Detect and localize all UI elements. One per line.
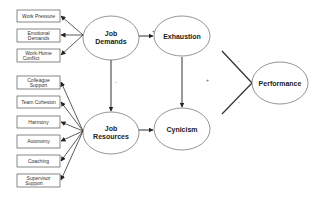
indicator-emotional-demands: Emotional Demands bbox=[17, 29, 60, 42]
construct-job-demands: Job Demands bbox=[83, 16, 139, 60]
indicator-team-cohesion: Team Cohesion bbox=[17, 96, 60, 108]
svg-text:Coaching: Coaching bbox=[28, 158, 49, 164]
construct-exhaustion: Exhaustion bbox=[154, 16, 210, 56]
sem-diagram: Work Pressure Emotional Demands Work-Hom… bbox=[0, 0, 323, 198]
svg-text:Support: Support bbox=[25, 180, 43, 186]
svg-text:Resources: Resources bbox=[93, 133, 129, 140]
path-exhaustion-performance bbox=[222, 51, 252, 83]
indicator-autonomy: Autonomy bbox=[17, 135, 60, 148]
svg-text:Demands: Demands bbox=[28, 35, 50, 41]
indicator-work-home-conflict: Work-Home Conflict bbox=[17, 49, 60, 62]
indicator-colleague-support: Colleague Support bbox=[17, 76, 60, 89]
svg-text:Performance: Performance bbox=[259, 80, 302, 87]
sign-jd-jr: - bbox=[115, 79, 117, 85]
demand-indicator-arrows bbox=[61, 16, 83, 55]
svg-text:Conflict: Conflict bbox=[23, 55, 40, 61]
construct-performance: Performance bbox=[252, 62, 308, 104]
indicator-work-pressure: Work Pressure bbox=[17, 10, 60, 22]
resource-indicator-arrows bbox=[61, 82, 83, 180]
construct-job-resources: Job Resources bbox=[83, 112, 139, 154]
svg-text:Cynicism: Cynicism bbox=[166, 126, 197, 134]
svg-text:Work Pressure: Work Pressure bbox=[22, 13, 55, 19]
svg-text:Team Cohesion: Team Cohesion bbox=[21, 99, 56, 105]
svg-text:Harmony: Harmony bbox=[28, 119, 49, 125]
sign-exhaustion-performance: - bbox=[238, 58, 240, 64]
construct-cynicism: Cynicism bbox=[154, 108, 210, 150]
svg-text:Demands: Demands bbox=[95, 38, 127, 45]
sign-cynicism-performance: - bbox=[238, 99, 240, 105]
svg-text:Job: Job bbox=[105, 30, 117, 37]
path-cynicism-performance bbox=[222, 83, 252, 114]
svg-text:Support: Support bbox=[30, 82, 48, 88]
indicator-coaching: Coaching bbox=[17, 155, 60, 167]
indicator-harmony: Harmony bbox=[17, 116, 60, 128]
svg-text:Job: Job bbox=[105, 125, 117, 132]
svg-text:Exhaustion: Exhaustion bbox=[163, 33, 201, 40]
svg-text:Autonomy: Autonomy bbox=[27, 138, 50, 144]
indicator-supervisor-support: Supervisor Support bbox=[17, 174, 60, 187]
sign-exhaustion-cynicism: + bbox=[206, 77, 209, 83]
